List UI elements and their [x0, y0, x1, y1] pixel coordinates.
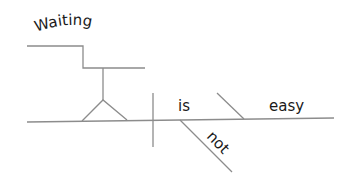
modifier-word: not	[203, 127, 233, 157]
sentence-diagram: Waiting is easy not	[0, 0, 347, 183]
complement-word: easy	[269, 97, 304, 115]
verb-word: is	[178, 97, 190, 115]
subject-word: Waiting	[32, 11, 94, 36]
gerund-step-line	[27, 46, 145, 68]
complement-slash	[217, 93, 244, 119]
pedestal	[82, 100, 127, 121]
